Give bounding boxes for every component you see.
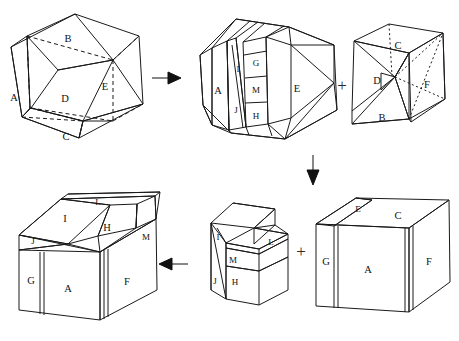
label-panel3-B: B bbox=[378, 112, 385, 123]
label-panel2-A: A bbox=[214, 85, 222, 96]
label-panel5-I: I bbox=[217, 232, 220, 242]
label-panel1-E: E bbox=[102, 81, 108, 92]
label-panel3-D: D bbox=[373, 75, 381, 86]
label-panel2-M: M bbox=[252, 85, 260, 95]
label-panel1-C: C bbox=[62, 131, 69, 142]
label-panel1-D: D bbox=[61, 93, 69, 104]
arrow-down-icon bbox=[307, 155, 319, 185]
label-panel4-F: F bbox=[124, 276, 130, 287]
panel-2-sliced-polyhedron: A I J G M H E bbox=[200, 19, 337, 139]
label-panel5-H: H bbox=[232, 277, 239, 287]
label-panel6-E: E bbox=[355, 204, 361, 214]
label-panel4-H: H bbox=[103, 222, 111, 233]
label-panel4-A: A bbox=[64, 283, 72, 294]
label-panel6-G: G bbox=[322, 256, 330, 267]
figure-canvas: A B C D E bbox=[0, 0, 459, 341]
label-panel3-C: C bbox=[394, 40, 401, 51]
label-panel4-I: I bbox=[63, 213, 67, 224]
arrow-left-bottom-icon bbox=[159, 258, 188, 270]
label-panel4-J: J bbox=[31, 236, 35, 246]
dissection-figure: A B C D E bbox=[0, 0, 459, 341]
label-panel5-L: L bbox=[268, 237, 274, 247]
label-panel5-M: M bbox=[229, 255, 237, 265]
label-panel4-M: M bbox=[142, 232, 150, 242]
arrow-right-top-icon bbox=[152, 72, 181, 84]
label-panel5-J: J bbox=[213, 276, 217, 286]
label-panel2-I: I bbox=[237, 64, 240, 74]
label-panel6-C: C bbox=[394, 210, 401, 221]
label-panel1-B: B bbox=[64, 33, 71, 44]
label-panel4-G: G bbox=[27, 275, 35, 286]
plus-top-icon: + bbox=[337, 76, 347, 95]
label-panel6-F: F bbox=[426, 256, 432, 267]
label-panel2-G: G bbox=[253, 58, 260, 68]
panel-1-original-polyhedron: A B C D E bbox=[10, 14, 143, 142]
label-panel3-F: F bbox=[424, 79, 430, 90]
label-panel2-J: J bbox=[234, 105, 238, 115]
label-panel6-A: A bbox=[364, 264, 372, 275]
plus-bottom-icon: + bbox=[296, 242, 306, 261]
label-panel2-H: H bbox=[253, 111, 260, 121]
label-panel1-A: A bbox=[10, 92, 18, 103]
label-panel2-E: E bbox=[294, 83, 300, 94]
panel-3-wedge-piece: C D B F bbox=[352, 24, 445, 124]
panel-4-assembled-cube-final: L I H M J G A F bbox=[19, 192, 160, 320]
label-panel4-L: L bbox=[95, 197, 101, 207]
panel-5-stepped-piece: I L M J H bbox=[211, 203, 288, 305]
panel-6-partial-cube: E C G A F bbox=[316, 198, 450, 312]
